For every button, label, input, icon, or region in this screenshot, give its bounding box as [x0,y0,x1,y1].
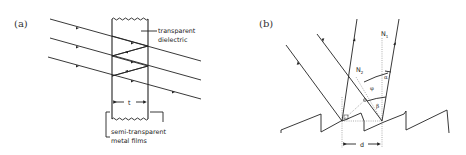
films-bracket-right [150,112,163,122]
alpha-angle-label: α [384,74,388,80]
films-label-line2: metal films [111,137,147,145]
dielectric-label-line2: dielectric [158,36,188,44]
panel-b: (b) N [259,18,449,149]
phi-angle-label: φ [370,85,374,92]
normal-n2-label: N2 [356,66,364,75]
films-label-line1: semi-transparent [111,128,166,136]
dotted-construction-lines [342,38,382,148]
dielectric-label-line1: transparent [158,27,196,35]
echelette-grating [281,110,449,133]
figure-canvas: (a) [0,0,466,155]
thickness-label: t [128,99,131,107]
beta-angle-label: β [376,103,379,110]
films-bracket-left [106,112,110,137]
panel-b-label: (b) [259,18,273,29]
panel-a-label: (a) [14,18,28,29]
normal-n1-label: N1 [381,30,389,39]
spacing-d-label: d [360,141,364,149]
panel-a: (a) [14,18,201,145]
